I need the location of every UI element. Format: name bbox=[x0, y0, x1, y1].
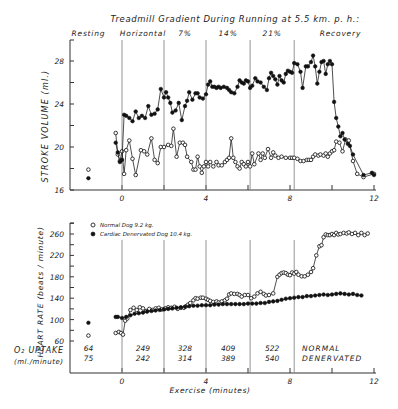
filled-circle-marker-icon bbox=[271, 300, 275, 304]
filled-circle-marker-icon bbox=[332, 100, 336, 104]
y-tick-label: 260 bbox=[50, 230, 65, 239]
filled-circle-marker-icon bbox=[124, 315, 128, 319]
open-circle-marker-icon bbox=[134, 173, 138, 177]
open-circle-marker-icon bbox=[261, 152, 265, 156]
open-circle-marker-icon bbox=[246, 160, 250, 164]
filled-circle-marker-icon bbox=[196, 304, 200, 308]
filled-circle-marker-icon bbox=[162, 308, 166, 312]
filled-circle-marker-icon bbox=[225, 302, 229, 306]
filled-circle-marker-icon bbox=[265, 88, 269, 92]
filled-circle-marker-icon bbox=[267, 300, 271, 304]
filled-circle-marker-icon bbox=[229, 302, 233, 306]
filled-circle-marker-icon bbox=[238, 302, 242, 306]
filled-circle-marker-icon bbox=[301, 295, 305, 299]
open-circle-marker-icon bbox=[267, 293, 271, 297]
filled-circle-marker-icon bbox=[316, 82, 320, 86]
open-circle-marker-icon bbox=[198, 165, 202, 169]
phase-label: Horizontal bbox=[120, 29, 166, 38]
x-tick-label: 8 bbox=[288, 194, 293, 203]
filled-circle-marker-icon bbox=[328, 59, 332, 63]
filled-circle-marker-icon bbox=[87, 176, 91, 180]
filled-circle-marker-icon bbox=[301, 86, 305, 90]
open-circle-marker-icon bbox=[232, 156, 236, 160]
filled-circle-marker-icon bbox=[175, 306, 179, 310]
o2-recovery-normal: NORMAL bbox=[302, 344, 341, 353]
filled-circle-marker-icon bbox=[196, 92, 200, 96]
filled-circle-marker-icon bbox=[284, 72, 288, 76]
filled-circle-marker-icon bbox=[140, 114, 144, 118]
open-circle-marker-icon bbox=[183, 143, 187, 147]
open-circle-marker-icon bbox=[338, 141, 342, 145]
filled-circle-marker-icon bbox=[156, 108, 160, 112]
phase-label: Recovery bbox=[320, 29, 362, 38]
filled-circle-marker-icon bbox=[326, 62, 330, 66]
x-tick-label: 8 bbox=[288, 377, 293, 386]
open-circle-marker-icon bbox=[284, 156, 288, 160]
filled-circle-marker-icon bbox=[313, 294, 317, 298]
open-circle-marker-icon bbox=[341, 150, 345, 154]
open-circle-marker-icon bbox=[87, 168, 91, 172]
filled-circle-marker-icon bbox=[114, 141, 118, 145]
filled-circle-marker-icon bbox=[183, 305, 187, 309]
open-circle-marker-icon bbox=[170, 144, 174, 148]
filled-circle-marker-icon bbox=[259, 301, 263, 305]
filled-circle-marker-icon bbox=[233, 92, 237, 96]
filled-circle-marker-icon bbox=[185, 99, 189, 103]
o2-denervated-value: 389 bbox=[221, 354, 236, 363]
filled-circle-marker-icon bbox=[322, 293, 326, 297]
filled-circle-marker-icon bbox=[246, 302, 250, 306]
x-tick-label: 12 bbox=[369, 377, 379, 386]
filled-circle-marker-icon bbox=[313, 65, 317, 69]
open-circle-marker-icon bbox=[202, 165, 206, 169]
open-circle-marker-icon bbox=[220, 164, 224, 168]
open-circle-marker-icon bbox=[172, 127, 176, 131]
filled-circle-marker-icon bbox=[145, 310, 149, 314]
filled-circle-marker-icon bbox=[305, 294, 309, 298]
open-circle-marker-icon bbox=[253, 162, 257, 166]
filled-circle-marker-icon bbox=[217, 303, 221, 307]
y-tick-label: 100 bbox=[50, 316, 65, 325]
stroke-volume-y-label: STROKE VOLUME (ml.) bbox=[41, 70, 50, 183]
filled-circle-marker-icon bbox=[322, 59, 326, 63]
open-circle-marker-icon bbox=[306, 273, 310, 277]
x-axis-label: Exercise (minutes) bbox=[170, 386, 251, 395]
filled-circle-marker-icon bbox=[324, 72, 328, 76]
filled-circle-marker-icon bbox=[128, 116, 132, 120]
open-circle-marker-icon bbox=[257, 152, 261, 156]
open-circle-marker-icon bbox=[190, 160, 194, 164]
filled-circle-marker-icon bbox=[299, 70, 303, 74]
filled-circle-marker-icon bbox=[284, 297, 288, 301]
filled-circle-marker-icon bbox=[318, 70, 322, 74]
filled-circle-marker-icon bbox=[171, 307, 175, 311]
filled-circle-marker-icon bbox=[255, 302, 259, 306]
filled-circle-marker-icon bbox=[221, 302, 225, 306]
stroke-volume-panel: 1620242804812 STROKE VOLUME (ml.) bbox=[41, 40, 379, 203]
filled-circle-marker-icon bbox=[290, 71, 294, 75]
open-circle-marker-icon bbox=[250, 152, 254, 156]
y-tick-label: 16 bbox=[54, 186, 64, 195]
legend-normal-label: Normal Dog 9.2 kg. bbox=[100, 222, 154, 229]
filled-circle-marker-icon bbox=[330, 62, 334, 66]
o2-denervated-value: 314 bbox=[178, 354, 193, 363]
filled-circle-marker-icon bbox=[187, 304, 191, 308]
open-circle-marker-icon bbox=[315, 254, 319, 258]
filled-circle-marker-icon bbox=[242, 82, 246, 86]
open-circle-marker-icon bbox=[204, 160, 208, 164]
filled-circle-marker-icon bbox=[162, 96, 166, 100]
o2-normal-value: 249 bbox=[136, 344, 151, 353]
legend: Normal Dog 9.2 kg. Cardiac Denervated Do… bbox=[91, 222, 192, 238]
open-circle-marker-icon bbox=[124, 148, 128, 152]
filled-circle-marker-icon bbox=[206, 83, 210, 87]
open-circle-marker-icon bbox=[280, 155, 284, 159]
filled-circle-marker-icon bbox=[208, 80, 212, 84]
filled-circle-marker-icon bbox=[278, 74, 282, 78]
filled-circle-marker-icon bbox=[339, 292, 343, 296]
o2-uptake-label: O₂ UPTAKE bbox=[14, 346, 64, 355]
open-circle-marker-icon bbox=[156, 161, 160, 165]
o2-normal-value: 64 bbox=[84, 344, 94, 353]
filled-circle-marker-icon bbox=[179, 306, 183, 310]
filled-circle-marker-icon bbox=[169, 101, 173, 105]
filled-circle-marker-icon bbox=[153, 112, 157, 116]
o2-denervated-value: 540 bbox=[265, 354, 280, 363]
filled-circle-marker-icon bbox=[159, 87, 163, 91]
